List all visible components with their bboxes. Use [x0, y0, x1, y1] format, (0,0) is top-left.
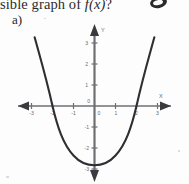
- y-axis-label: Y: [101, 27, 105, 33]
- y-tick-label-3: 3: [85, 40, 88, 46]
- question-function-label: f(x): [85, 0, 106, 12]
- x-tick-label-0: 0: [98, 110, 101, 116]
- y-tick-label-1: 1: [85, 82, 88, 88]
- x-tick-label-3: 3: [156, 110, 159, 116]
- question-line-cutoff: sible graph of f(x)?: [0, 0, 189, 14]
- scan-speck: [178, 150, 180, 152]
- y-axis-up-arrow-icon: [90, 24, 99, 36]
- x-tick-label-1: 1: [115, 110, 118, 116]
- y-tick-label-2: 2: [85, 61, 88, 67]
- scan-speck: [44, 18, 46, 19]
- x-axis-left-arrow-icon: [18, 102, 29, 111]
- y-tick-label--1: -1: [84, 124, 89, 130]
- figure-container: sible graph of f(x)? a): [0, 0, 189, 184]
- x-tick-label--1: -1: [71, 110, 76, 116]
- x-axis-label: X: [159, 93, 163, 99]
- scan-speck: [6, 176, 9, 178]
- y-axis-down-arrow-icon: [90, 170, 99, 182]
- question-text-fragment: sible graph of: [0, 0, 85, 12]
- y-tick-label-0: 0: [87, 98, 90, 104]
- question-tail: ?: [105, 0, 112, 12]
- y-tick-label--3: -3: [84, 166, 89, 172]
- parabola-plot: -3 -2 -1 0 1 2 3 3 2 1 0 -1 -2 -3 Y X: [0, 20, 189, 184]
- filled-oval-annotation-icon: [149, 0, 168, 10]
- plot-svg: -3 -2 -1 0 1 2 3 3 2 1 0 -1 -2 -3 Y X: [0, 20, 189, 184]
- y-tick-label--2: -2: [84, 145, 89, 151]
- x-axis-right-arrow-icon: [160, 102, 171, 111]
- x-tick-label--3: -3: [29, 110, 34, 116]
